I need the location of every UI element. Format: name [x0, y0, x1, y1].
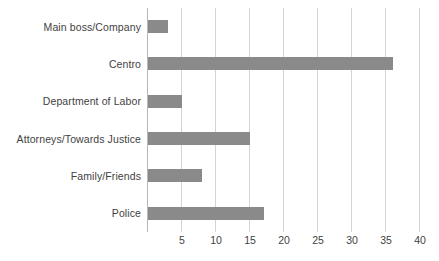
category-label: Department of Labor: [0, 95, 141, 107]
bar[interactable]: [148, 57, 393, 70]
category-label: Police: [0, 207, 141, 219]
bar-row: Family/Friends: [0, 157, 439, 194]
bar-row: Department of Labor: [0, 83, 439, 120]
x-tick-label: 40: [414, 234, 426, 246]
x-tick-label: 20: [278, 234, 290, 246]
category-label: Family/Friends: [0, 170, 141, 182]
category-label: Centro: [0, 58, 141, 70]
bar[interactable]: [148, 169, 202, 182]
bar-row: Centro: [0, 45, 439, 82]
x-axis-tick-labels: 510152025303540: [0, 234, 439, 254]
x-tick-label: 25: [312, 234, 324, 246]
x-tick-label: 5: [179, 234, 185, 246]
bar-row: Attorneys/Towards Justice: [0, 120, 439, 157]
bar[interactable]: [148, 20, 168, 33]
x-tick-label: 35: [380, 234, 392, 246]
bar-row: Main boss/Company: [0, 8, 439, 45]
bar[interactable]: [148, 95, 182, 108]
bar-row: Police: [0, 195, 439, 232]
bar-chart: Main boss/CompanyCentroDepartment of Lab…: [0, 0, 439, 261]
x-tick-label: 30: [346, 234, 358, 246]
x-tick-label: 10: [210, 234, 222, 246]
bar-rows: Main boss/CompanyCentroDepartment of Lab…: [0, 8, 439, 232]
category-label: Attorneys/Towards Justice: [0, 133, 141, 145]
x-tick-label: 15: [244, 234, 256, 246]
category-label: Main boss/Company: [0, 21, 141, 33]
bar[interactable]: [148, 132, 250, 145]
bar[interactable]: [148, 207, 264, 220]
